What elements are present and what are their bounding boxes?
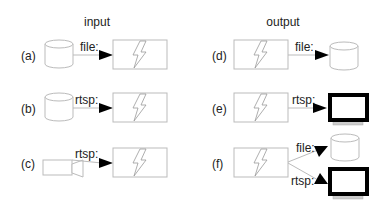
row-e-protocol: rtsp: bbox=[292, 93, 315, 107]
row-f-tag: (f) bbox=[212, 157, 223, 171]
row-a-protocol: file: bbox=[80, 40, 99, 54]
process-box bbox=[234, 148, 288, 177]
row-a-tag: (a) bbox=[21, 49, 36, 63]
process-box bbox=[113, 93, 167, 122]
process-box bbox=[113, 40, 167, 69]
arrow-right-icon bbox=[99, 158, 113, 168]
row-e-tag: (e) bbox=[212, 102, 227, 116]
storage-cylinder-icon bbox=[330, 42, 358, 70]
storage-cylinder-icon bbox=[45, 40, 73, 68]
row-d: (d) file: bbox=[212, 40, 358, 70]
process-box bbox=[113, 148, 167, 177]
storage-cylinder-icon bbox=[331, 134, 359, 161]
row-c-protocol: rtsp: bbox=[75, 147, 98, 161]
arrow-right-icon bbox=[315, 50, 329, 60]
row-f: (f) file: rtsp: bbox=[212, 134, 367, 199]
process-box bbox=[234, 93, 288, 122]
input-header: input bbox=[84, 15, 111, 29]
row-e: (e) rtsp: bbox=[212, 93, 367, 125]
output-header: output bbox=[266, 15, 300, 29]
monitor-icon bbox=[330, 95, 367, 125]
row-d-tag: (d) bbox=[212, 49, 227, 63]
row-b: (b) rtsp: bbox=[21, 93, 167, 122]
row-c-tag: (c) bbox=[21, 157, 35, 171]
row-c: (c) rtsp: bbox=[21, 147, 167, 177]
arrow-right-icon bbox=[99, 103, 113, 113]
diagram-canvas: input output (a) file: (b) rtsp: (c bbox=[0, 0, 388, 207]
arrow-down-right-icon bbox=[314, 146, 328, 157]
row-a: (a) file: bbox=[21, 40, 167, 69]
arrow-right-icon bbox=[99, 50, 113, 60]
row-f-protocol-file: file: bbox=[296, 141, 315, 155]
process-box bbox=[234, 40, 288, 69]
row-b-tag: (b) bbox=[21, 102, 36, 116]
monitor-icon bbox=[330, 169, 367, 199]
camera-icon bbox=[43, 160, 83, 177]
arrow-right-icon bbox=[313, 103, 327, 113]
row-d-protocol: file: bbox=[295, 40, 314, 54]
row-b-protocol: rtsp: bbox=[75, 93, 98, 107]
row-f-protocol-rtsp: rtsp: bbox=[291, 174, 314, 188]
storage-cylinder-icon bbox=[45, 93, 73, 121]
